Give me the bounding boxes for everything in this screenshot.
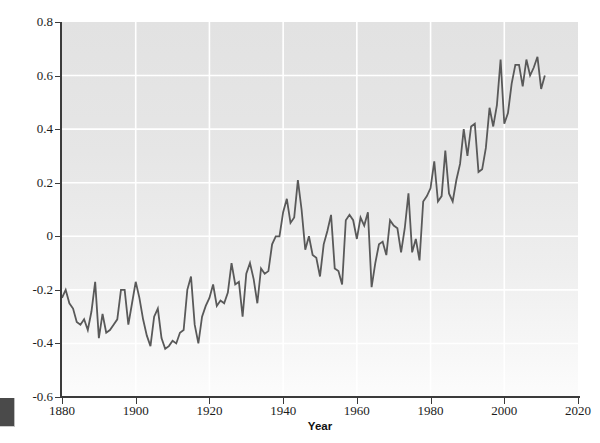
data-series-polyline (62, 57, 545, 349)
x-tick-label: 1920 (179, 404, 239, 417)
y-tick-label-holder: 0.8 (0, 15, 53, 28)
y-tick-mark (55, 183, 61, 184)
y-tick-mark (55, 290, 61, 291)
y-tick-mark (55, 129, 61, 130)
y-tick-mark (55, 343, 61, 344)
y-tick-label-holder: 0.2 (0, 176, 53, 189)
y-tick-label: -0.6 (5, 390, 53, 403)
y-tick-label: -0.2 (5, 283, 53, 296)
x-tick-label: 2000 (474, 404, 534, 417)
y-tick-label: 0.2 (5, 176, 53, 189)
y-tick-label: 0.8 (5, 15, 53, 28)
y-tick-label-holder: -0.2 (0, 283, 53, 296)
y-axis-spine (60, 22, 62, 398)
y-tick-label-holder: -0.4 (0, 336, 53, 349)
x-axis-spine (60, 396, 580, 398)
y-tick-label-holder: 0.6 (0, 69, 53, 82)
x-tick-label: 1900 (106, 404, 166, 417)
y-tick-mark (55, 236, 61, 237)
y-tick-label: 0.4 (5, 122, 53, 135)
chart-figure: Temperature difference (°C) -0.6-0.4-0.2… (0, 0, 600, 443)
x-axis-label: Year (62, 420, 578, 432)
temperature-series-line (62, 22, 578, 397)
y-tick-label-holder: 0.4 (0, 122, 53, 135)
y-tick-label: 0.6 (5, 69, 53, 82)
y-tick-label: -0.4 (5, 336, 53, 349)
x-tick-label: 1960 (327, 404, 387, 417)
x-tick-label: 1980 (401, 404, 461, 417)
y-tick-mark (55, 397, 61, 398)
x-tick-label: 1880 (32, 404, 92, 417)
y-tick-mark (55, 22, 61, 23)
x-tick-label: 2020 (548, 404, 600, 417)
y-tick-mark (55, 76, 61, 77)
y-tick-label-holder: -0.6 (0, 390, 53, 403)
x-tick-label: 1940 (253, 404, 313, 417)
y-tick-label: 0 (5, 229, 53, 242)
plot-area (62, 22, 578, 397)
y-tick-label-holder: 0 (0, 229, 53, 242)
